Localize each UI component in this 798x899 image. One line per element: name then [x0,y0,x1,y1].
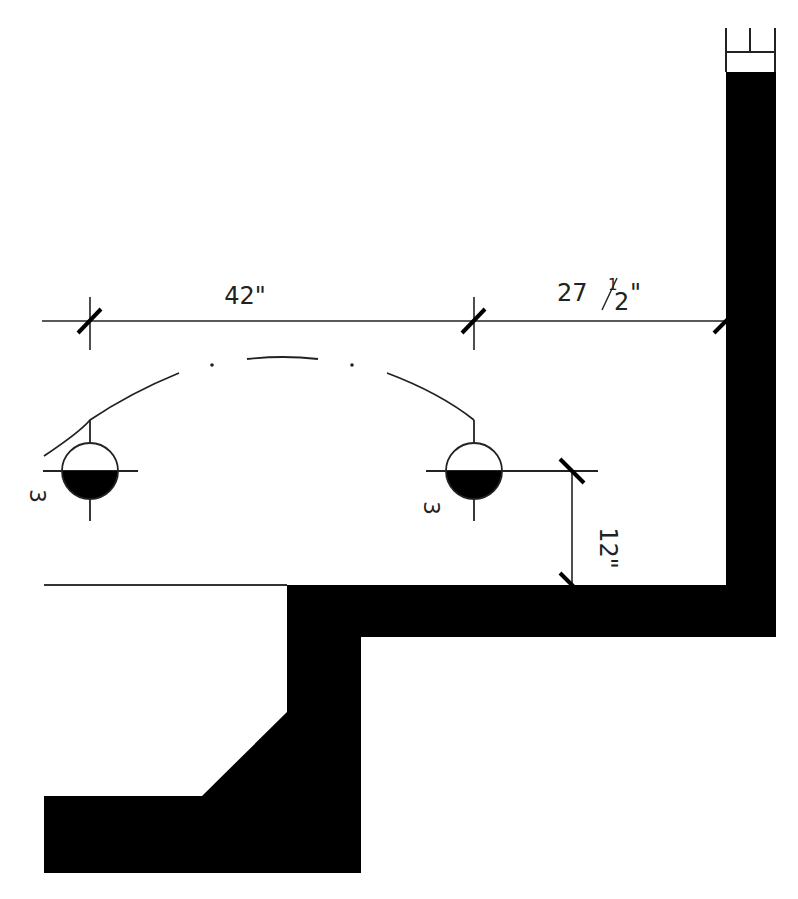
left-light-fixture [43,420,138,521]
dimension-27-half-label: 27 1 2 " [557,276,641,316]
svg-text:27: 27 [557,279,588,307]
lower-wall [44,585,361,873]
dimension-42-label: 42" [224,282,266,310]
walls [44,72,776,873]
right-wall [726,72,776,637]
left-fixture-label: 3 [25,489,50,503]
window-symbol [726,28,775,72]
svg-text:2: 2 [614,288,629,316]
switch-leg-arc [44,357,474,456]
vertical-dimension-line [560,459,584,587]
floor-plan-drawing: 42" 27 1 2 " 3 3 12" [0,0,798,899]
dimension-12-label: 12" [594,527,622,569]
right-fixture-label: 3 [419,501,444,515]
svg-text:": " [630,279,641,307]
